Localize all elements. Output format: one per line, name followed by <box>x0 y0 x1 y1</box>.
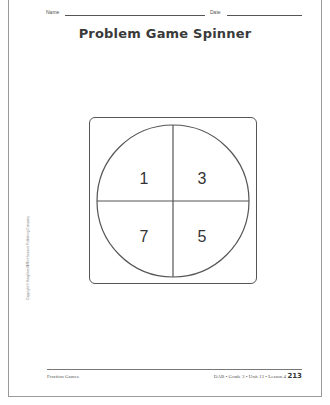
name-field-line[interactable] <box>65 15 205 16</box>
spinner-section-bottom-left: 7 <box>140 228 149 245</box>
page-number: 213 <box>287 372 302 380</box>
copyright-notice: Copyright © Houghton Mifflin Harcourt Pu… <box>26 216 30 300</box>
page-title: Problem Game Spinner <box>0 26 330 41</box>
spinner-section-top-left: 1 <box>140 170 149 187</box>
footer-lesson-text: DAB • Grade 3 • Unit 13 • Lesson 4 <box>214 374 286 379</box>
date-field-line[interactable] <box>227 15 302 16</box>
footer-divider <box>47 369 302 370</box>
spinner-section-top-right: 3 <box>198 170 207 187</box>
footer-section-name: Fraction Games <box>47 374 79 379</box>
footer-lesson-info: DAB • Grade 3 • Unit 13 • Lesson 4 213 <box>214 372 302 380</box>
name-label: Name <box>46 9 59 15</box>
spinner-diagram: 1 3 7 5 <box>89 117 257 284</box>
spinner-section-bottom-right: 5 <box>198 228 207 245</box>
date-label: Date <box>210 9 221 15</box>
